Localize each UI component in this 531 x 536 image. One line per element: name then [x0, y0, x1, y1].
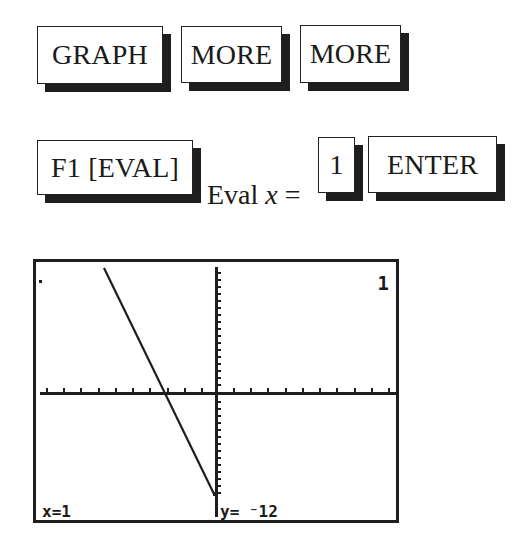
enter-key[interactable]: ENTER — [368, 136, 497, 193]
f1-eval-key[interactable]: F1 [EVAL] — [37, 140, 193, 195]
eval-prompt-prefix: Eval — [207, 179, 265, 210]
eval-prompt: Eval x = — [207, 179, 301, 211]
calculator-graph-screen: 1 x=1 y= ⁻12 — [33, 259, 399, 523]
x-coordinate-readout: x=1 — [42, 504, 71, 520]
digit-1-key[interactable]: 1 — [318, 137, 355, 193]
function-graph-line — [104, 268, 214, 494]
graph-plot — [36, 262, 396, 520]
y-coordinate-readout: y= ⁻12 — [220, 504, 278, 520]
more-key-1[interactable]: MORE — [181, 26, 282, 83]
y-axis — [215, 267, 218, 517]
busy-indicator-dot — [39, 280, 42, 283]
graph-key[interactable]: GRAPH — [37, 26, 163, 84]
eval-prompt-variable: x — [265, 179, 277, 210]
more-key-2[interactable]: MORE — [300, 25, 401, 83]
eval-prompt-suffix: = — [278, 179, 301, 210]
y-axis-ticks — [218, 272, 221, 494]
function-number-indicator: 1 — [378, 274, 389, 293]
trace-cursor — [213, 492, 217, 496]
